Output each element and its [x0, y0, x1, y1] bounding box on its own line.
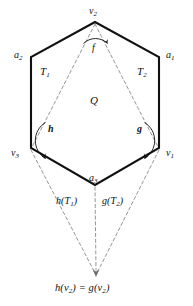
figure-canvas: v2 a2 a1 T1 T2 Q f h g v3 v1 a3 h(T1) g(…	[0, 0, 193, 306]
dashed-construction-lines	[31, 24, 159, 271]
label-map-h: h	[48, 124, 54, 134]
geometry-diagram	[0, 0, 193, 306]
label-edge-a2: a2	[14, 50, 23, 62]
label-edge-a3: a3	[89, 173, 98, 185]
dashed-v3-to-apex	[31, 150, 94, 271]
label-bottom-equation: h(v2) = g(v2)	[55, 283, 110, 295]
dashed-a3-to-apex	[95, 187, 96, 270]
dashed-v2-to-v1	[95, 24, 158, 147]
label-vertex-v1: v1	[166, 148, 174, 160]
label-image-h-t1: h(T1)	[56, 196, 77, 208]
label-image-g-t2: g(T2)	[102, 196, 123, 208]
label-region-t2: T2	[137, 66, 147, 79]
label-map-g: g	[137, 124, 142, 134]
dashed-v1-to-apex	[98, 150, 159, 271]
dashed-v2-to-v3	[32, 24, 95, 147]
apex-arrowhead-icon	[93, 270, 100, 278]
label-map-f: f	[92, 43, 95, 53]
label-vertex-v2: v2	[89, 6, 97, 18]
label-edge-a1: a1	[166, 50, 175, 62]
label-region-q: Q	[90, 95, 98, 106]
label-region-t1: T1	[40, 66, 50, 79]
label-vertex-v3: v3	[11, 148, 19, 160]
